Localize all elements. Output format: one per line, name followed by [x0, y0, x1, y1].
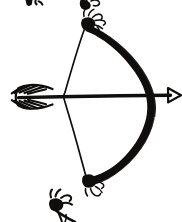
sketch-canvas: bow-and-arrow	[0, 0, 182, 222]
bow-and-arrow-drawing	[0, 0, 182, 222]
